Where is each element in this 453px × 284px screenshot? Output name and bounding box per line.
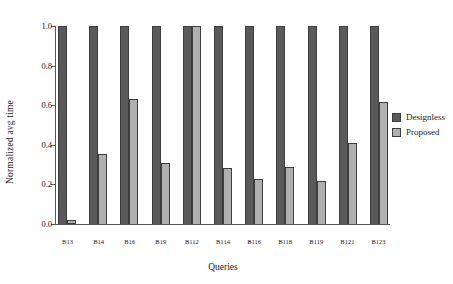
bar-designless-B16: [120, 26, 129, 224]
bar-designless-B114: [214, 26, 223, 224]
legend-item-designless: Designless: [392, 112, 445, 122]
bar-proposed-B121: [348, 143, 357, 224]
bar-group-B13: [58, 26, 76, 224]
bar-proposed-B116: [254, 179, 263, 224]
bar-group-B116: [245, 26, 263, 224]
y-tick-label: 0.2: [41, 179, 52, 189]
bar-designless-B123: [370, 26, 379, 224]
bar-chart-figure: Normalized avg time 0.00.20.40.60.81.0 B…: [0, 0, 453, 284]
x-tick-label-B13: B13: [58, 238, 77, 250]
x-axis-tick-labels: B13B14B16B19B112B114B116B118B119B121B123: [56, 238, 390, 250]
y-tick-label: 0.6: [41, 100, 52, 110]
x-tick-label-B118: B118: [276, 238, 295, 250]
bar-designless-B118: [276, 26, 285, 224]
bar-group-B16: [120, 26, 138, 224]
legend-swatch-proposed: [392, 128, 401, 137]
bar-group-B119: [308, 26, 326, 224]
bar-group-B114: [214, 26, 232, 224]
y-axis-title: Normalized avg time: [0, 0, 20, 284]
bar-groups: [56, 26, 390, 224]
legend-label: Proposed: [406, 127, 440, 137]
x-tick-label-B19: B19: [151, 238, 170, 250]
bar-proposed-B14: [98, 154, 107, 224]
bar-designless-B116: [245, 26, 254, 224]
bar-proposed-B123: [379, 102, 388, 224]
x-tick-label-B121: B121: [338, 238, 357, 250]
y-tick-label: 0.0: [41, 219, 52, 229]
legend-label: Designless: [406, 112, 445, 122]
bar-designless-B112: [183, 26, 192, 224]
bar-designless-B119: [308, 26, 317, 224]
bar-proposed-B114: [223, 168, 232, 224]
y-tick-label: 0.8: [41, 61, 52, 71]
bar-designless-B14: [89, 26, 98, 224]
bar-group-B19: [152, 26, 170, 224]
x-tick-label-B112: B112: [182, 238, 201, 250]
bar-proposed-B19: [161, 163, 170, 224]
x-tick-label-B116: B116: [245, 238, 264, 250]
x-tick-label-B114: B114: [213, 238, 232, 250]
legend-swatch-designless: [392, 113, 401, 122]
bar-group-B14: [89, 26, 107, 224]
x-tick-label-B14: B14: [89, 238, 108, 250]
x-axis-line: [55, 224, 390, 225]
y-tick-label: 1.0: [41, 21, 52, 31]
y-tick-label: 0.4: [41, 140, 52, 150]
bar-proposed-B13: [67, 220, 76, 224]
bar-group-B118: [276, 26, 294, 224]
x-tick-label-B123: B123: [369, 238, 388, 250]
bar-group-B121: [339, 26, 357, 224]
bar-group-B112: [183, 26, 201, 224]
bar-designless-B121: [339, 26, 348, 224]
bar-group-B123: [370, 26, 388, 224]
x-tick-label-B16: B16: [120, 238, 139, 250]
plot-area: 0.00.20.40.60.81.0: [56, 26, 390, 224]
legend: DesignlessProposed: [392, 112, 445, 137]
bar-proposed-B118: [285, 167, 294, 224]
bar-designless-B19: [152, 26, 161, 224]
bar-proposed-B16: [129, 99, 138, 224]
bar-proposed-B119: [317, 181, 326, 224]
bar-designless-B13: [58, 26, 67, 224]
bar-proposed-B112: [192, 26, 201, 224]
legend-item-proposed: Proposed: [392, 127, 445, 137]
x-tick-label-B119: B119: [307, 238, 326, 250]
x-axis-title: Queries: [56, 262, 390, 272]
